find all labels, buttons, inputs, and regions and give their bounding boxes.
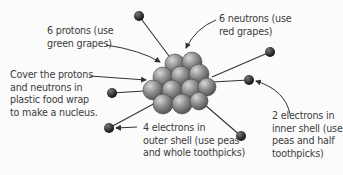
electron-outer (134, 11, 144, 21)
electron-outer (104, 123, 114, 133)
electron-inner (265, 47, 275, 57)
neutrons-label: 6 neutrons (use red grapes) (219, 13, 291, 38)
electron-inner (244, 75, 254, 85)
protons-label: 6 protons (use green grapes) (47, 25, 114, 50)
nucleus (143, 52, 216, 114)
nucleus-label: Cover the protons and neutrons in plasti… (10, 69, 98, 119)
electron-outer (107, 88, 117, 98)
outer-electrons-label: 4 electrons in outer shell (use peas and… (143, 122, 245, 160)
inner-electrons-label: 2 electrons in inner shell (use peas and… (272, 110, 343, 160)
